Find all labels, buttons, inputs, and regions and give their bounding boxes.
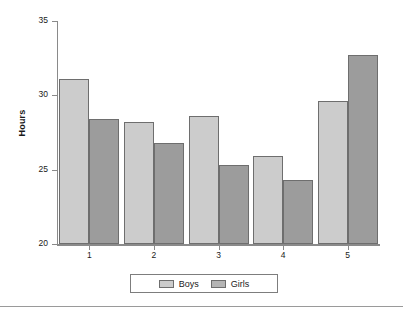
bar-girls-1 bbox=[89, 119, 119, 244]
y-axis-label: Hours bbox=[17, 93, 27, 153]
plot-area: 20253035 12345 bbox=[57, 21, 380, 244]
legend-swatch-icon bbox=[211, 280, 226, 288]
bar-boys-2 bbox=[124, 122, 154, 244]
bar-girls-2 bbox=[154, 143, 184, 244]
y-tick: 35 bbox=[52, 21, 57, 22]
legend-swatch-icon bbox=[159, 280, 174, 288]
y-tick: 20 bbox=[52, 244, 57, 245]
y-tick: 30 bbox=[52, 95, 57, 96]
x-tick-label: 4 bbox=[268, 250, 298, 260]
y-tick-label: 20 bbox=[39, 238, 48, 248]
bottom-divider bbox=[0, 306, 403, 307]
bar-boys-3 bbox=[189, 116, 219, 244]
legend-entry-girls[interactable]: Girls bbox=[211, 279, 250, 289]
bar-girls-4 bbox=[283, 180, 313, 244]
x-tick-label: 1 bbox=[74, 250, 104, 260]
bar-chart-figure: Hours 20253035 12345 BoysGirls bbox=[0, 0, 403, 318]
y-tick-label: 30 bbox=[39, 89, 48, 99]
legend-entry-boys[interactable]: Boys bbox=[159, 279, 199, 289]
y-tick: 25 bbox=[52, 170, 57, 171]
legend-label: Boys bbox=[179, 279, 199, 289]
y-tick-label: 25 bbox=[39, 164, 48, 174]
legend-label: Girls bbox=[231, 279, 250, 289]
bar-boys-5 bbox=[318, 101, 348, 244]
bar-girls-5 bbox=[348, 55, 378, 244]
bar-boys-1 bbox=[59, 79, 89, 244]
x-tick-label: 5 bbox=[333, 250, 363, 260]
x-tick-label: 2 bbox=[139, 250, 169, 260]
bar-boys-4 bbox=[253, 156, 283, 244]
bar-girls-3 bbox=[219, 165, 249, 244]
chart-legend: BoysGirls bbox=[130, 274, 278, 293]
y-axis-line bbox=[57, 21, 58, 244]
x-tick-label: 3 bbox=[204, 250, 234, 260]
y-tick-label: 35 bbox=[39, 15, 48, 25]
